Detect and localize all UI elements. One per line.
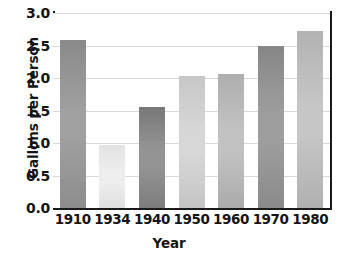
- bar: [179, 76, 205, 208]
- x-tick-label: 1960: [211, 211, 251, 227]
- bar: [258, 46, 284, 209]
- x-tick-label: 1910: [53, 211, 93, 227]
- bar: [218, 74, 244, 208]
- bar: [99, 145, 125, 208]
- x-tick-label: 1940: [132, 211, 172, 227]
- plot-right-border: [330, 11, 332, 210]
- bar: [139, 107, 165, 208]
- x-tick-label: 1980: [290, 211, 330, 227]
- x-tick-label: 1934: [93, 211, 133, 227]
- x-axis-line: [53, 208, 332, 210]
- y-tick-label: 1.0: [6, 135, 50, 151]
- bar-chart: Gallons per Person 3.02.52.01.51.00.50.0…: [0, 0, 338, 263]
- bar: [60, 40, 86, 208]
- y-tick-label: 3.0: [6, 5, 50, 21]
- plot-area: [53, 13, 330, 208]
- x-axis-title: Year: [0, 235, 338, 251]
- y-tick-label: 0.5: [6, 168, 50, 184]
- y-tick-label: 2.0: [6, 70, 50, 86]
- y-axis-tick-labels: 3.02.52.01.51.00.50.0: [6, 0, 50, 263]
- x-axis-tick-labels: 1910193419401950196019701980: [53, 211, 330, 233]
- x-tick-label: 1950: [172, 211, 212, 227]
- y-tick-label: 1.5: [6, 103, 50, 119]
- bars-group: [53, 13, 330, 208]
- y-tick-label: 0.0: [6, 200, 50, 216]
- y-tick-label: 2.5: [6, 38, 50, 54]
- x-tick-label: 1970: [251, 211, 291, 227]
- bar: [297, 31, 323, 208]
